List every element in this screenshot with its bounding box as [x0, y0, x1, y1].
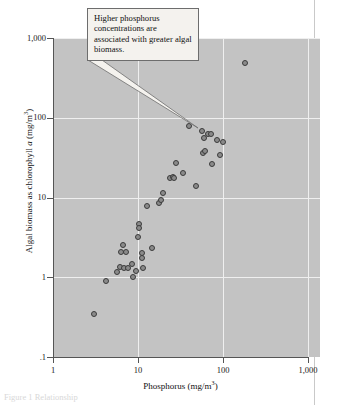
figure-page: .11101001,0001101001,000 Phosphorus (mg/…	[0, 0, 345, 405]
y-axis-tick	[47, 38, 53, 39]
x-axis-title-tail: )	[215, 381, 218, 391]
x-axis-tick	[223, 357, 224, 363]
scatter-point	[242, 60, 248, 66]
y-axis-tick	[47, 277, 53, 278]
scatter-point	[217, 152, 223, 158]
y-axis-line	[53, 38, 54, 358]
y-axis-title-lead: Algal biomass as chlorophyll	[24, 146, 34, 254]
scatter-point	[160, 190, 166, 196]
y-axis-title-end: )	[24, 109, 34, 112]
y-axis-tick-label: 1	[42, 273, 46, 282]
scatter-point	[193, 183, 199, 189]
gridline-horizontal	[53, 118, 320, 119]
scatter-point	[123, 249, 129, 255]
y-axis-tick-label: 1,000	[27, 34, 46, 43]
y-axis-tick	[47, 198, 53, 199]
gridline-horizontal	[53, 198, 320, 199]
y-axis-title-italic: a	[24, 141, 34, 146]
scatter-point	[140, 265, 146, 271]
y-axis-tick-label: .1	[40, 353, 46, 362]
x-axis-title-text: Phosphorus (mg/m	[143, 381, 211, 391]
y-axis-tick-label: 10	[38, 193, 47, 202]
scatter-point	[199, 128, 205, 134]
x-axis-tick	[308, 357, 309, 363]
callout-annotation: Higher phosphorus concentrations are ass…	[87, 8, 199, 61]
scatter-point	[120, 242, 126, 248]
scatter-point	[220, 139, 226, 145]
caption-fragment: Figure 1 Relationship	[4, 392, 78, 402]
scatter-point	[139, 255, 145, 261]
x-axis-tick-label: 100	[217, 366, 230, 375]
x-axis-title: Phosphorus (mg/m3)	[53, 381, 308, 391]
scatter-point	[180, 170, 186, 176]
scatter-point	[91, 311, 97, 317]
y-axis-title-tail: (mg/m	[24, 115, 34, 141]
x-axis-tick-label: 1	[51, 366, 55, 375]
y-axis-title: Algal biomass as chlorophyll a (mg/m3)	[24, 56, 34, 306]
x-axis-tick	[53, 357, 54, 363]
y-axis-tick-label: 100	[33, 113, 46, 122]
gridline-horizontal	[53, 277, 320, 278]
x-axis-tick-label: 10	[134, 366, 143, 375]
plot-area	[53, 38, 320, 357]
y-axis-title-sup: 3	[23, 112, 29, 115]
x-axis-line	[53, 357, 308, 358]
scatter-point	[103, 278, 109, 284]
scatter-point	[135, 234, 141, 240]
x-axis-tick-label: 1,000	[298, 366, 317, 375]
y-axis-tick	[47, 118, 53, 119]
x-axis-tick	[138, 357, 139, 363]
callout-text: Higher phosphorus concentrations are ass…	[94, 13, 192, 54]
